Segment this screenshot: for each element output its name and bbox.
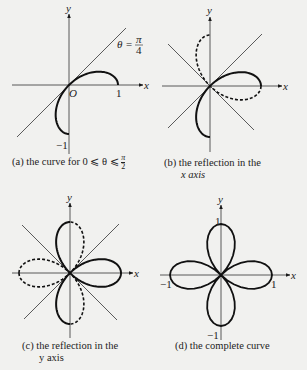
caption-d-line1: (d) the complete curve [175,340,270,352]
caption-b-line1: (b) the reflection in the [164,157,261,169]
caption-b-line2: x axis [164,169,261,181]
caption-a-text: (a) the curve for 0 ⩽ θ ⩽ [12,156,121,167]
line-label-den: 4 [136,44,142,56]
y-axis-label: y [65,2,71,14]
x-axis-label: x [143,79,149,91]
y-axis-label: y [217,193,223,205]
tick-x-1: 1 [116,87,122,99]
caption-a: (a) the curve for 0 ⩽ θ ⩽ π2 [12,154,125,171]
tick-x-neg1: −1 [160,278,172,290]
panel-c: y x [12,191,139,338]
caption-c-line2: y axis [22,352,118,364]
tick-x-1: 1 [271,278,277,290]
caption-c: (c) the reflection in the y axis [22,340,118,364]
figure-canvas: y x O 1 −1 θ = π 4 y x y x y x 1 [0,0,307,370]
line-label: θ = [117,38,133,50]
x-axis-label: x [133,267,139,279]
y-axis-label: y [206,4,212,16]
panel-b: y x [162,4,288,152]
tick-y-1: 1 [215,215,221,227]
panel-a: y x O 1 −1 θ = π 4 [12,2,149,154]
panel-d: y x 1 −1 1 −1 [160,193,296,341]
origin-label: O [69,87,77,99]
caption-a-fraction: π2 [121,154,125,171]
caption-b: (b) the reflection in the x axis [164,157,261,181]
tick-y-neg1: −1 [56,139,68,151]
caption-c-line1: (c) the reflection in the [22,340,118,352]
x-axis-label: x [290,269,296,281]
x-axis-label: x [282,80,288,92]
caption-d: (d) the complete curve [175,340,270,352]
frac-den: 2 [121,163,125,171]
y-axis-label: y [66,191,72,203]
curve-solid [56,72,118,134]
